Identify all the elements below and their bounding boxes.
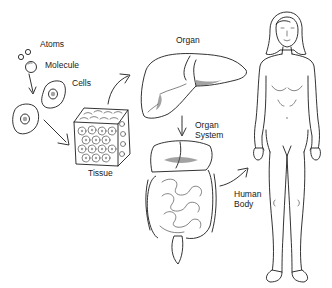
molecule-icon [26,62,37,73]
atoms-label: Atoms [40,40,64,50]
atoms-icon [18,49,30,59]
cell-icon [42,81,66,108]
human-body-icon [254,12,321,282]
digestive-system-icon [146,141,216,264]
cells-label: Cells [72,79,91,89]
human-body-label-line2: Body [234,200,253,210]
arrow-molecule-to-cell-icon [29,74,36,94]
molecule-label: Molecule [45,61,79,71]
arrow-organ-to-system-icon [178,116,186,136]
liver-organ-icon [141,54,246,119]
organ-label: Organ [176,36,200,46]
tissue-cube-icon [74,108,130,166]
organ-system-label-line2: System [195,131,223,141]
tissue-label: Tissue [88,169,113,179]
arrow-tissue-to-organ-icon [108,74,130,104]
arrow-system-to-body-icon [220,168,248,186]
cell-icon [13,104,39,134]
arrow-cell-to-tissue-icon [44,120,69,145]
levels-of-organization-diagram: Atoms Molecule Cells Tissue Organ Organ … [0,0,332,288]
